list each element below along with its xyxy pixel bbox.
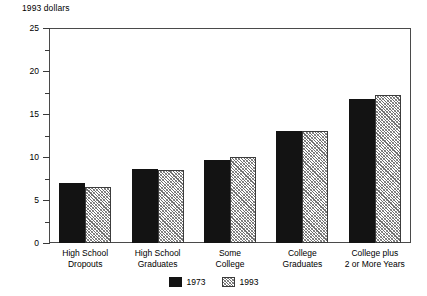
y-tick-label: 25: [13, 24, 39, 33]
bar-1993-4: [375, 95, 401, 243]
legend-item: 1973: [169, 277, 206, 287]
bar-1973-3: [276, 131, 302, 243]
legend-swatch-icon: [222, 277, 235, 287]
bar-1993-3: [302, 131, 328, 243]
bar-1993-1: [158, 170, 184, 243]
x-axis-category-label: College plus 2 or More Years: [320, 248, 427, 269]
y-tick-major: [43, 243, 50, 244]
bar-1973-1: [132, 169, 158, 243]
legend-label: 1973: [187, 278, 206, 287]
y-tick-label: 20: [13, 67, 39, 76]
bar-1993-0: [85, 187, 111, 243]
y-axis-title: 1993 dollars: [22, 3, 70, 13]
legend-item: 1993: [222, 277, 259, 287]
y-tick-label: 0: [13, 239, 39, 248]
y-tick-label: 15: [13, 110, 39, 119]
bar-chart: 1993 dollars 0510152025 High School Drop…: [0, 0, 427, 296]
y-tick-label: 10: [13, 153, 39, 162]
y-tick-label: 5: [13, 196, 39, 205]
bar-1973-4: [349, 99, 375, 243]
bar-1973-0: [59, 183, 85, 243]
legend-swatch-icon: [169, 277, 182, 287]
legend-label: 1993: [240, 278, 259, 287]
chart-legend: 19731993: [0, 277, 427, 287]
bar-1993-2: [230, 157, 256, 243]
bars-layer: [49, 28, 411, 243]
bar-1973-2: [204, 160, 230, 243]
